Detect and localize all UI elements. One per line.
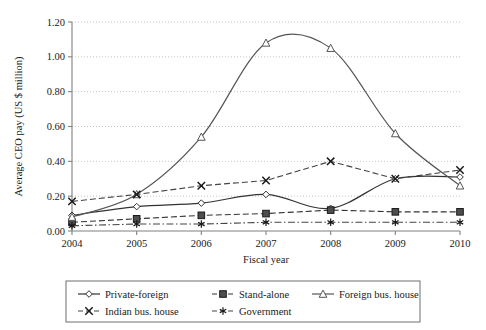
y-tick-label: 0.20 bbox=[47, 191, 65, 202]
marker-triangle-open bbox=[262, 39, 270, 46]
marker-diamond-open bbox=[263, 191, 270, 198]
y-axis-title: Average CEO pay (US $ million) bbox=[13, 56, 25, 197]
marker-triangle-open bbox=[327, 44, 335, 51]
axes bbox=[72, 22, 460, 231]
triangle-icon bbox=[262, 39, 270, 46]
marker-square-filled bbox=[457, 209, 464, 216]
y-tick-label: 0.00 bbox=[47, 226, 65, 237]
legend-label: Foreign bus. house bbox=[339, 289, 419, 300]
marker-square-filled bbox=[392, 209, 399, 216]
y-tick-label: 0.40 bbox=[47, 156, 65, 167]
marker-square-filled bbox=[198, 212, 205, 219]
legend-label: Indian bus. house bbox=[105, 306, 179, 317]
chart-container: 0.000.200.400.600.801.001.20200420052006… bbox=[0, 0, 486, 330]
marker-diamond-open bbox=[198, 200, 205, 207]
legend: Private-foreignStand-aloneForeign bus. h… bbox=[66, 281, 420, 322]
asterisk-icon bbox=[457, 219, 463, 226]
triangle-icon bbox=[327, 44, 335, 51]
square-icon bbox=[457, 209, 464, 216]
x-tick-label: 2010 bbox=[450, 238, 471, 249]
gridlines bbox=[72, 22, 460, 196]
marker-triangle-open bbox=[456, 182, 464, 189]
legend-label: Stand-alone bbox=[239, 289, 289, 300]
x-axis-ticks: 2004200520062007200820092010 bbox=[62, 231, 471, 249]
marker-square-filled bbox=[220, 291, 227, 298]
marker-square-filled bbox=[327, 207, 334, 214]
square-icon bbox=[392, 209, 399, 216]
legend-label: Private-foreign bbox=[105, 289, 169, 300]
x-tick-label: 2006 bbox=[191, 238, 212, 249]
y-tick-label: 1.00 bbox=[47, 51, 65, 62]
x-tick-label: 2008 bbox=[320, 238, 341, 249]
x-axis-title: Fiscal year bbox=[243, 254, 289, 265]
diamond-icon bbox=[457, 174, 464, 181]
marker-asterisk bbox=[457, 219, 463, 226]
x-tick-label: 2009 bbox=[385, 238, 406, 249]
square-icon bbox=[263, 210, 270, 217]
square-icon bbox=[327, 207, 334, 214]
x-tick-label: 2007 bbox=[256, 238, 277, 249]
x-tick-label: 2004 bbox=[62, 238, 84, 249]
marker-diamond-open bbox=[86, 291, 93, 298]
marker-diamond-open bbox=[133, 203, 140, 210]
y-tick-label: 1.20 bbox=[47, 17, 65, 28]
y-tick-label: 0.60 bbox=[47, 121, 65, 132]
diamond-icon bbox=[86, 291, 93, 298]
x-tick-label: 2005 bbox=[126, 238, 147, 249]
series-government bbox=[69, 219, 463, 230]
diamond-icon bbox=[133, 203, 140, 210]
series-line bbox=[72, 34, 460, 217]
y-tick-label: 0.80 bbox=[47, 86, 65, 97]
marker-square-filled bbox=[263, 210, 270, 217]
square-icon bbox=[220, 291, 227, 298]
line-chart: 0.000.200.400.600.801.001.20200420052006… bbox=[0, 0, 486, 330]
triangle-icon bbox=[456, 182, 464, 189]
marker-diamond-open bbox=[457, 174, 464, 181]
legend-label: Government bbox=[239, 306, 292, 317]
y-axis-ticks: 0.000.200.400.600.801.001.20 bbox=[47, 17, 72, 237]
square-icon bbox=[198, 212, 205, 219]
diamond-icon bbox=[198, 200, 205, 207]
diamond-icon bbox=[263, 191, 270, 198]
